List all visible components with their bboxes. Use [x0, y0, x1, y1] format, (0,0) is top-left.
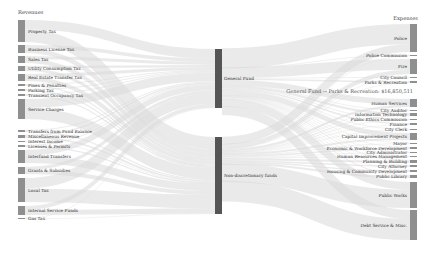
node-label: Property Tax [28, 29, 56, 34]
node-debt-service-misc[interactable] [410, 210, 417, 240]
node-interest-income[interactable] [18, 141, 25, 142]
node-housing-community-development[interactable] [410, 170, 417, 172]
node-police[interactable] [410, 24, 417, 52]
node-label: Police Commission [366, 53, 407, 58]
node-fines-penalties[interactable] [18, 84, 25, 86]
node-city-auditor[interactable] [410, 110, 417, 111]
node-gas-tax[interactable] [18, 218, 25, 219]
node-city-clerk[interactable] [410, 129, 417, 130]
node-human-resources-management[interactable] [410, 156, 417, 157]
node-local-tax[interactable] [18, 178, 25, 202]
node-grants-subsidies[interactable] [18, 167, 25, 174]
node-label: Licenses & Permits [28, 144, 70, 149]
node-label: Grants & Subsidies [28, 168, 70, 173]
node-fire[interactable] [410, 59, 417, 74]
node-public-works[interactable] [410, 182, 417, 208]
node-real-estate-transfer-tax[interactable] [18, 74, 25, 81]
node-label: Real Estate Transfer Tax [28, 75, 82, 80]
node-interfund-transfers[interactable] [18, 150, 25, 163]
node-public-library[interactable] [410, 175, 417, 178]
node-city-council[interactable] [410, 77, 417, 78]
node-label: Finance [390, 122, 408, 127]
node-transfers-from-fund-balance[interactable] [18, 130, 25, 132]
node-label: Capital Improvement Projects [342, 134, 407, 139]
tooltip: General Fund → Parks & Recreation: $16,8… [286, 88, 413, 94]
node-parks-recreation[interactable] [410, 81, 417, 83]
node-economic-workforce-development[interactable] [410, 147, 417, 149]
node-finance[interactable] [410, 123, 417, 125]
node-label: Utility Consumption Tax [28, 66, 81, 71]
node-label: Human Services [371, 101, 407, 106]
node-label: Internal Service Funds [28, 208, 78, 213]
node-label: City Clerk [385, 127, 407, 132]
expenses-header: Expenses [393, 15, 418, 22]
node-label: Fire [398, 64, 407, 69]
node-label: General Fund [224, 76, 254, 81]
node-label: Police [394, 36, 407, 41]
node-planning-building[interactable] [410, 160, 417, 163]
node-transient-occupancy-tax[interactable] [18, 94, 25, 96]
node-label: Service Charges [28, 107, 64, 112]
node-sales-tax[interactable] [18, 56, 25, 63]
node-label: Interfund Transfers [28, 154, 71, 159]
node-information-technology[interactable] [410, 113, 417, 116]
node-property-tax[interactable] [18, 20, 25, 42]
node-parking-tax[interactable] [18, 89, 25, 91]
node-general-fund[interactable] [215, 49, 222, 108]
node-non-discretionary-funds[interactable] [215, 137, 222, 214]
node-city-administrator[interactable] [410, 152, 417, 153]
node-label: Gas Tax [28, 216, 46, 221]
node-label: Housing & Community Development [327, 169, 407, 174]
node-label: Non-discretionary funds [224, 173, 277, 178]
node-capital-improvement-projects[interactable] [410, 133, 417, 140]
node-utility-consumption-tax[interactable] [18, 66, 25, 71]
node-human-services[interactable] [410, 99, 417, 107]
node-label: Local Tax [28, 188, 49, 193]
node-miscellaneous-revenue[interactable] [18, 135, 25, 138]
node-city-attorney[interactable] [410, 165, 417, 167]
node-label: Parks & Recreation [365, 80, 408, 85]
sankey-diagram: Property TaxBusiness License TaxSales Ta… [0, 0, 435, 254]
node-label: Public Works [378, 193, 407, 198]
node-licenses-permits[interactable] [18, 145, 25, 147]
node-internal-service-funds[interactable] [18, 206, 25, 215]
node-mayor[interactable] [410, 143, 417, 144]
node-label: Transfers from Fund Balance [28, 129, 92, 134]
node-label: Debt Service & Misc. [361, 223, 407, 228]
node-label: Transient Occupancy Tax [28, 93, 84, 98]
revenues-header: Revenues [18, 9, 44, 15]
node-label: Public Library [376, 174, 408, 179]
node-business-license-tax[interactable] [18, 45, 25, 53]
node-label: Sales Tax [28, 57, 49, 62]
node-public-ethics-commission[interactable] [410, 119, 417, 120]
flow-link[interactable] [25, 195, 215, 201]
node-service-charges[interactable] [18, 99, 25, 119]
node-label: Business License Tax [28, 47, 75, 52]
node-police-commission[interactable] [410, 55, 417, 56]
